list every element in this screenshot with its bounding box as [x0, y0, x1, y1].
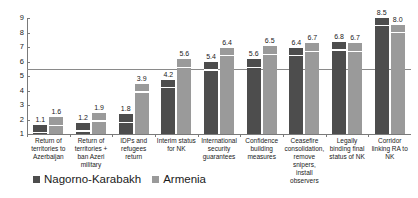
bar-value-marker: [305, 51, 319, 53]
bar-body: [375, 25, 389, 134]
bar-value-label: 4.2: [163, 71, 173, 78]
bar-value-marker: [263, 54, 277, 56]
bar: 1.9: [92, 18, 106, 134]
bar: 1.1: [33, 18, 47, 134]
bar-group: 1.21.9: [70, 18, 113, 134]
bar-group: 6.46.7: [283, 18, 326, 134]
bar-body: [305, 51, 319, 134]
bar-value-marker: [220, 55, 234, 57]
bar: 1.6: [49, 18, 63, 134]
bar: 1.2: [76, 18, 90, 134]
bar: 6.4: [289, 18, 303, 134]
bar-value-marker: [247, 67, 261, 69]
legend-swatch-icon: [152, 176, 159, 183]
legend-item[interactable]: Nagorno-Karabakh: [33, 174, 141, 186]
y-axis-tick-label: 1: [20, 130, 27, 138]
bar-pair: 6.46.7: [283, 18, 326, 134]
y-axis-tick-label: 8: [20, 29, 27, 37]
y-axis-tick-label: 3: [20, 101, 27, 109]
x-axis-label-line: status of NK: [327, 153, 368, 161]
bar-groups: 1.11.61.21.91.83.94.25.65.46.45.66.56.46…: [27, 18, 411, 134]
bar-value-label: 1.6: [51, 108, 61, 115]
x-axis-label-line: Corridor: [369, 137, 410, 145]
bar-pair: 1.11.6: [27, 18, 70, 134]
bar-value-marker: [391, 32, 405, 34]
x-axis-label-line: ban Azeri: [71, 153, 112, 161]
bar-value-marker: [348, 51, 362, 53]
y-axis-tick-label: 5: [20, 72, 27, 80]
y-axis-tick-label: 7: [20, 43, 27, 51]
bar-value-label: 1.1: [35, 116, 45, 123]
x-axis-label-line: IDPs and: [113, 137, 154, 145]
x-axis-label-line: linking RA to: [369, 145, 410, 153]
bar-group: 5.66.5: [240, 18, 283, 134]
plot-area: 123456789 1.11.61.21.91.83.94.25.65.46.4…: [27, 18, 411, 134]
x-axis-label: Confidencebuildingmeasures: [240, 137, 283, 185]
x-axis-label-line: Legally: [327, 137, 368, 145]
bar-pair: 1.83.9: [112, 18, 155, 134]
bar: 8.5: [375, 18, 389, 134]
bar-body: [391, 33, 405, 135]
bar-chart: 123456789 1.11.61.21.91.83.94.25.65.46.4…: [0, 0, 418, 198]
bar-body: [49, 125, 63, 134]
bar: 6.7: [305, 18, 319, 134]
bar-group: 4.25.6: [155, 18, 198, 134]
bar-value-label: 6.4: [291, 39, 301, 46]
x-axis-label-line: snipers, install: [284, 161, 325, 177]
bar-value-label: 5.6: [179, 50, 189, 57]
bar-value-label: 6.5: [265, 37, 275, 44]
bar-pair: 5.46.4: [198, 18, 241, 134]
bar: 4.2: [161, 18, 175, 134]
bar-value-label: 6.4: [222, 39, 232, 46]
x-axis-label: Corridorlinking RA toNK: [368, 137, 411, 185]
x-axis-label-line: NK: [369, 153, 410, 161]
bar: 6.7: [348, 18, 362, 134]
x-axis-label: Legallybinding finalstatus of NK: [326, 137, 369, 185]
bar-body: [92, 121, 106, 134]
x-axis-label-line: binding final: [327, 145, 368, 153]
bar-body: [263, 54, 277, 134]
bar: 5.6: [247, 18, 261, 134]
bar-value-marker: [92, 120, 106, 122]
bar-group: 1.83.9: [112, 18, 155, 134]
x-axis-label-line: Interim status: [156, 137, 197, 145]
bar-body: [332, 50, 346, 134]
x-axis-label-line: security: [199, 145, 240, 153]
bar-group: 8.58.0: [368, 18, 411, 134]
bar-value-marker: [161, 87, 175, 89]
bar-value-marker: [289, 55, 303, 57]
bar-pair: 5.66.5: [240, 18, 283, 134]
bar-body: [204, 70, 218, 134]
x-axis-line: [27, 134, 411, 135]
bar-value-label: 8.0: [393, 16, 403, 23]
bar: 3.9: [135, 18, 149, 134]
x-axis-label-line: building: [241, 145, 282, 153]
bar-value-label: 5.4: [206, 53, 216, 60]
x-axis-label-line: observers: [284, 177, 325, 185]
bar-pair: 1.21.9: [70, 18, 113, 134]
bar-value-marker: [204, 69, 218, 71]
bar-value-label: 8.5: [377, 9, 387, 16]
bar: 5.4: [204, 18, 218, 134]
bar-value-marker: [375, 25, 389, 27]
x-axis-label-line: Return of: [71, 137, 112, 145]
bar-value-marker: [135, 91, 149, 93]
x-axis-label-line: territories to: [28, 145, 69, 153]
bar-body: [177, 67, 191, 134]
x-axis-label-line: consolidation,: [284, 145, 325, 153]
bar-group: 6.86.7: [326, 18, 369, 134]
bar-body: [348, 51, 362, 134]
legend-item[interactable]: Armenia: [152, 174, 206, 186]
bar-body: [161, 88, 175, 134]
y-axis-tick-label: 4: [20, 87, 27, 95]
bar-body: [119, 122, 133, 134]
bar-group: 1.11.6: [27, 18, 70, 134]
bar-value-label: 6.8: [334, 33, 344, 40]
legend-label: Nagorno-Karabakh: [44, 174, 141, 186]
x-axis-label-line: refugees: [113, 145, 154, 153]
y-axis-tick-label: 9: [20, 14, 27, 22]
bar-body: [135, 92, 149, 134]
x-axis-label-line: Return of: [28, 137, 69, 145]
bar-value-label: 1.2: [78, 114, 88, 121]
x-axis-label-line: Ceasefire: [284, 137, 325, 145]
